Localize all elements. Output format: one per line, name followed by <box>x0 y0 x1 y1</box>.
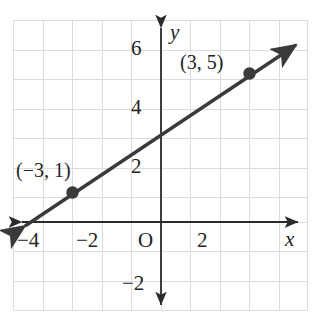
x-axis-label: x <box>285 229 294 250</box>
y-axis-label: y <box>170 22 179 43</box>
coordinate-plane-figure: 6 4 2 −2 −4 −2 O 2 y x (−3, 1) (3, 5) <box>0 0 322 320</box>
point-label-3-5: (3, 5) <box>180 52 223 72</box>
data-point-marker <box>66 186 78 198</box>
data-point-marker <box>243 67 255 79</box>
x-tick-label-minus-4: −4 <box>17 230 39 251</box>
x-tick-label-minus-2: −2 <box>76 230 98 251</box>
point-label-minus3-1: (−3, 1) <box>16 160 71 180</box>
y-tick-label-4: 4 <box>131 97 142 118</box>
y-tick-label-6: 6 <box>131 38 142 59</box>
y-tick-label-minus-2: −2 <box>122 273 144 294</box>
origin-label: O <box>138 230 153 251</box>
y-tick-label-2: 2 <box>131 156 142 177</box>
x-tick-label-2: 2 <box>197 230 208 251</box>
